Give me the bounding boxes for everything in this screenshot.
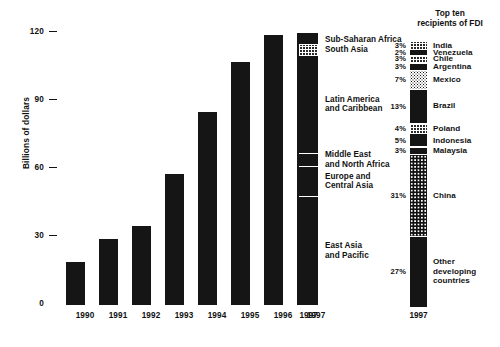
region-segment[interactable] [299, 196, 318, 305]
bar-1995[interactable] [231, 62, 250, 305]
region-segment[interactable] [299, 56, 318, 153]
bar-1992[interactable] [132, 226, 151, 305]
y-axis-tick-label: 30 [18, 231, 44, 240]
fdi-segment-divider [410, 49, 427, 50]
bar-1991[interactable] [99, 239, 118, 305]
region-segment[interactable] [299, 33, 318, 44]
fdi-segment-indonesia[interactable] [410, 134, 427, 147]
fdi-country-label: Brazil [433, 101, 455, 111]
fdi-country-label: Other developing countries [433, 257, 476, 286]
region-bar-year-label: 1997 [286, 311, 332, 320]
y-axis-title: Billions of dollars [21, 63, 31, 203]
y-axis-tick: 120 [18, 27, 57, 36]
fdi-country-label: Malaysia [433, 146, 467, 156]
region-segment[interactable] [299, 44, 318, 55]
region-label: Middle East and North Africa [325, 150, 390, 169]
fdi-percent-label: 27% [385, 267, 406, 276]
region-segment-divider [299, 55, 318, 56]
region-stacked-bar [299, 33, 318, 305]
fdi-percent-label: 4% [385, 124, 406, 133]
region-segment[interactable] [299, 153, 318, 167]
region-segment-divider [299, 153, 318, 154]
fdi-segment-divider [410, 89, 427, 90]
y-axis-tick: 90 [18, 95, 57, 104]
region-label: East Asia and Pacific [325, 241, 369, 260]
fdi-segment-divider [410, 123, 427, 124]
fdi-country-label: Poland [433, 124, 460, 134]
y-axis-tick-mark [49, 31, 57, 32]
fdi-country-label: Indonesia [433, 136, 471, 146]
fdi-segment-brazil[interactable] [410, 89, 427, 123]
y-axis-tick-label: 120 [18, 27, 44, 36]
fdi-segment-divider [410, 70, 427, 71]
fdi-percent-label: 7% [385, 75, 406, 84]
fdi-percent-label: 31% [385, 191, 406, 200]
fdi-segment-other[interactable] [410, 236, 427, 307]
fdi-bar-year-label: 1997 [397, 311, 441, 320]
fdi-segment-divider [410, 62, 427, 63]
fdi-percent-label: 3% [385, 146, 406, 155]
bar-plot-area: 19901991199219931994199519961997 [60, 33, 322, 305]
y-axis-tick-label: 0 [18, 299, 44, 308]
y-axis-tick-label: 60 [18, 163, 44, 172]
fdi-percent-label: 5% [385, 136, 406, 145]
bar-1990[interactable] [66, 262, 85, 305]
region-segment[interactable] [299, 167, 318, 196]
y-axis-tick: 30 [18, 231, 57, 240]
y-axis-tick: 60 [18, 163, 57, 172]
fdi-country-label: Mexico [433, 75, 461, 85]
fdi-segment-divider [410, 236, 427, 237]
region-label: Latin America and Caribbean [325, 95, 383, 114]
y-axis-tick: 0 [18, 299, 49, 308]
fdi-segment-divider [410, 154, 427, 155]
region-label: South Asia [325, 45, 368, 55]
y-axis-tick-mark [49, 99, 57, 100]
fdi-segment-divider [410, 146, 427, 147]
fdi-country-label: Argentina [433, 62, 471, 72]
fdi-segment-mexico[interactable] [410, 71, 427, 89]
y-axis-tick-label: 90 [18, 95, 44, 104]
bar-1996[interactable] [264, 35, 283, 305]
region-segment-divider [299, 44, 318, 45]
fdi-panel-heading: Top ten recipients of FDI [398, 8, 500, 29]
region-segment-divider [299, 196, 318, 197]
fdi-segment-divider [410, 55, 427, 56]
bar-1993[interactable] [165, 174, 184, 305]
region-label: Europe and Central Asia [325, 172, 373, 191]
fdi-country-label: China [433, 191, 456, 201]
region-segment-divider [299, 166, 318, 167]
fdi-percent-label: 13% [385, 102, 406, 111]
fdi-stacked-bar [410, 42, 427, 307]
chart-canvas: Billions of dollars 1209060300 199019911… [0, 0, 500, 347]
fdi-percent-label: 3% [385, 62, 406, 71]
fdi-segment-china[interactable] [410, 155, 427, 236]
fdi-segment-divider [410, 133, 427, 134]
y-axis-tick-mark [49, 167, 57, 168]
y-axis-tick-mark [49, 235, 57, 236]
bar-1994[interactable] [198, 112, 217, 305]
